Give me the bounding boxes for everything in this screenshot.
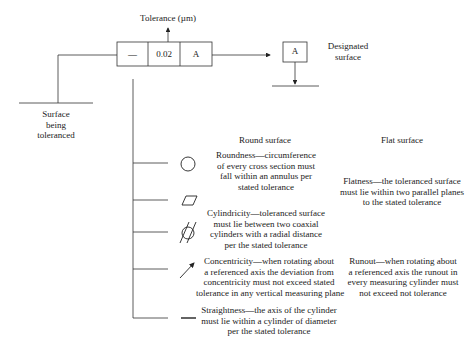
fcf-symbol: — [117,42,148,66]
concentricity-text: Concentricity—when rotating about a refe… [196,256,342,298]
parallelogram-icon [182,196,197,205]
roundness-text: Roundness—circumference of every cross s… [200,150,332,192]
cylindricity-text: Cylindricity—toleranced surface must lie… [200,208,332,250]
circle-icon [181,157,195,171]
cylindricity-icon [180,222,196,243]
round-surface-header: Round surface [225,135,305,146]
arrow-icon [180,263,194,278]
runout-text: Runout—when rotating about a referenced … [340,256,466,298]
fcf-tolerance-value: 0.02 [148,42,180,66]
straightness-text: Straightness—the axis of the cylinder mu… [196,305,342,337]
designated-surface-label: Designated surface [318,41,378,62]
tolerance-label: Tolerance (µm) [138,13,198,24]
flat-surface-header: Flat surface [362,135,442,146]
fcf-datum: A [180,42,212,66]
datum-box-label: A [283,46,307,57]
flatness-text: Flatness—the toleranced surface must lie… [338,176,466,208]
surface-toleranced-label: Surface being toleranced [26,109,86,141]
